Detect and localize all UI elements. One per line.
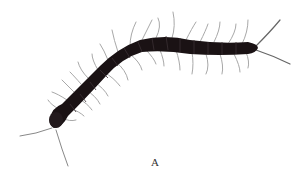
tail-appendages [256, 20, 290, 64]
figure-caption: A [148, 156, 162, 168]
head [49, 112, 63, 128]
centipede-body [50, 37, 259, 128]
antennae [20, 128, 68, 166]
centipede-illustration [0, 0, 298, 178]
